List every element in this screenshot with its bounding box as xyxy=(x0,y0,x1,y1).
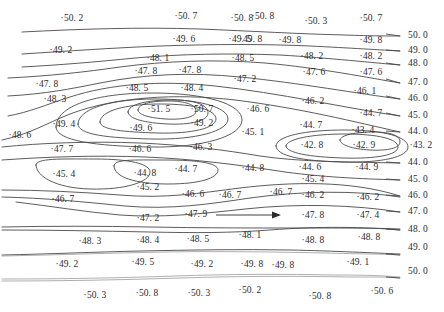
data-point-value: 45. 4 xyxy=(305,174,325,184)
data-point-label: ·49. 1 xyxy=(347,258,370,268)
data-point-value: 50. 7 xyxy=(178,11,198,21)
data-point-marker-dot: · xyxy=(181,83,184,93)
data-point-label: ·47. 8 xyxy=(179,66,202,76)
data-point-marker-dot: · xyxy=(136,288,139,298)
data-point-marker-dot: · xyxy=(360,67,363,77)
contour-line-49-upper xyxy=(22,45,400,55)
data-point-label: ·50. 3 xyxy=(188,289,211,299)
data-point-marker-dot: · xyxy=(182,189,185,199)
data-point-label: ·48. 4 xyxy=(137,236,160,246)
data-point-value: 43. 4 xyxy=(355,125,375,135)
data-point-marker-dot: · xyxy=(191,118,194,128)
contour-level-label: 44. 0 xyxy=(408,158,428,168)
data-point-label: ·46. 2 xyxy=(302,191,325,201)
data-point-label: ·46. 7 xyxy=(52,195,75,205)
data-point-marker-dot: · xyxy=(410,140,413,150)
contour-level-label: 46. 0 xyxy=(408,94,428,104)
data-point-value: 46. 1 xyxy=(357,86,377,96)
data-point-label: ·48. 3 xyxy=(44,95,67,105)
data-point-label: ·44. 7 xyxy=(360,109,383,119)
data-point-label: ·49. 2 xyxy=(56,260,79,270)
data-point-value: 48. 3 xyxy=(47,94,67,104)
data-point-label: ·48. 5 xyxy=(126,84,149,94)
contour-level-label: 46. 0 xyxy=(408,191,428,201)
data-point-value: 50. 2 xyxy=(242,285,262,295)
data-point-value: 49. 2 xyxy=(53,45,73,55)
data-point-value: 44. 9 xyxy=(359,162,379,172)
data-point-value: 49. 1 xyxy=(350,257,370,267)
data-point-label: ·46. 2 xyxy=(357,193,380,203)
data-point-marker-dot: · xyxy=(302,210,305,220)
data-point-marker-dot: · xyxy=(137,235,140,245)
data-point-label: ·45. 1 xyxy=(242,128,265,138)
data-point-value: 48. 8 xyxy=(305,235,325,245)
data-point-label: ·50. 3 xyxy=(305,17,328,27)
data-point-value: 46. 7 xyxy=(222,190,242,200)
data-point-marker-dot: · xyxy=(61,13,64,23)
data-point-value: 42. 8 xyxy=(304,140,324,150)
data-point-label: ·47. 8 xyxy=(135,67,158,77)
data-point-label: ·50. 6 xyxy=(371,287,394,297)
data-point-value: 48. 5 xyxy=(190,234,210,244)
data-point-marker-dot: · xyxy=(301,140,304,150)
data-point-marker-dot: · xyxy=(129,144,132,154)
contour-level-label: 48. 0 xyxy=(408,225,428,235)
flow-direction-arrow-head xyxy=(272,212,281,219)
data-point-marker-dot: · xyxy=(187,234,190,244)
data-point-marker-dot: · xyxy=(137,213,140,223)
data-point-marker-dot: · xyxy=(229,34,232,44)
data-point-label: ·46. 6 xyxy=(247,105,270,115)
data-point-marker-dot: · xyxy=(347,257,350,267)
data-point-label: ·47. 8 xyxy=(302,211,325,221)
data-point-marker-dot: · xyxy=(240,34,243,44)
data-point-label: ·49. 8 xyxy=(240,35,263,45)
data-point-label: ·50. 8 xyxy=(252,12,275,22)
data-point-label: ·49. 2 xyxy=(50,46,73,56)
data-point-marker-dot: · xyxy=(360,13,363,23)
data-point-label: ·48. 8 xyxy=(358,233,381,243)
data-point-marker-dot: · xyxy=(360,35,363,45)
data-point-value: 44. 7 xyxy=(178,164,198,174)
data-point-label: ·48. 6 xyxy=(9,131,32,141)
data-point-value: 49. 4 xyxy=(56,119,76,129)
data-point-value: 50. 6 xyxy=(374,286,394,296)
data-point-marker-dot: · xyxy=(191,104,194,114)
data-point-marker-dot: · xyxy=(147,53,150,63)
data-point-label: ·44. 8 xyxy=(242,164,265,174)
data-point-marker-dot: · xyxy=(303,67,306,77)
data-point-marker-dot: · xyxy=(302,235,305,245)
data-point-value: 50. 3 xyxy=(308,16,328,26)
data-point-value: 44. 8 xyxy=(245,163,265,173)
data-point-value: 47. 2 xyxy=(140,213,160,223)
data-point-label: ·46. 6 xyxy=(129,145,152,155)
data-point-value: 50. 8 xyxy=(255,11,275,21)
contour-map: ·50. 2·50. 7·50. 8·50. 8·50. 3·50. 7·49.… xyxy=(0,0,444,312)
data-point-marker-dot: · xyxy=(173,34,176,44)
data-point-value: 49. 2 xyxy=(59,259,79,269)
data-point-label: ·42. 9 xyxy=(353,141,376,151)
data-point-value: 49. 6 xyxy=(176,34,196,44)
data-point-marker-dot: · xyxy=(354,86,357,96)
data-point-marker-dot: · xyxy=(299,162,302,172)
data-point-label: ·48. 4 xyxy=(181,84,204,94)
contour-level-label: 49. 0 xyxy=(408,46,428,56)
data-point-label: ·47. 7 xyxy=(51,145,74,155)
data-point-value: 44. 7 xyxy=(303,120,323,130)
data-point-value: 48. 5 xyxy=(235,53,255,63)
data-point-marker-dot: · xyxy=(56,259,59,269)
data-point-value: 48. 4 xyxy=(184,83,204,93)
data-point-value: 46. 3 xyxy=(193,142,213,152)
data-point-label: ·44. 7 xyxy=(300,121,323,131)
data-point-label: ·45. 2 xyxy=(137,183,160,193)
data-point-label: ·50. 8 xyxy=(309,292,332,302)
data-point-label: ·49. 5 xyxy=(132,258,155,268)
contour-closed-low-outer xyxy=(276,130,408,162)
data-point-value: 47. 9 xyxy=(188,209,208,219)
data-point-marker-dot: · xyxy=(188,288,191,298)
data-point-marker-dot: · xyxy=(135,66,138,76)
data-point-label: ·47. 6 xyxy=(360,68,383,78)
contour-line-49-lower xyxy=(2,252,400,256)
data-point-marker-dot: · xyxy=(300,120,303,130)
data-point-value: 47. 7 xyxy=(54,144,74,154)
data-point-label: ·46. 7 xyxy=(219,191,242,201)
